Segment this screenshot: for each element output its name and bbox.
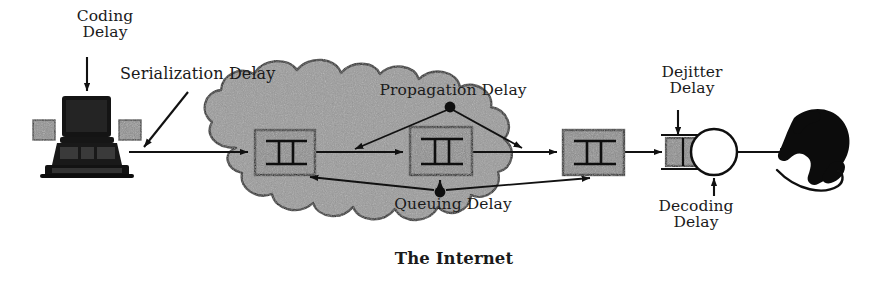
sender-workstation <box>33 96 141 178</box>
router-2 <box>410 127 472 175</box>
router-3 <box>563 130 624 175</box>
queuing-delay-label: Queuing Delay <box>378 196 528 212</box>
serialization-delay-label: Serialization Delay <box>120 66 302 83</box>
propagation-delay-label: Propagation Delay <box>370 82 536 98</box>
serialization-delay-arrow <box>144 92 188 147</box>
decoding-delay-label: Decoding Delay <box>636 198 756 230</box>
decoder-circle <box>691 129 737 175</box>
the-internet-label: The Internet <box>375 250 533 267</box>
telephone-handset <box>777 109 850 190</box>
dejitter-delay-label: Dejitter Delay <box>637 64 747 96</box>
propagation-delay-dot <box>445 102 456 113</box>
voip-delay-diagram: Coding Delay Serialization Delay Propaga… <box>0 0 871 292</box>
coding-delay-label: Coding Delay <box>45 8 165 40</box>
router-1 <box>255 130 315 175</box>
